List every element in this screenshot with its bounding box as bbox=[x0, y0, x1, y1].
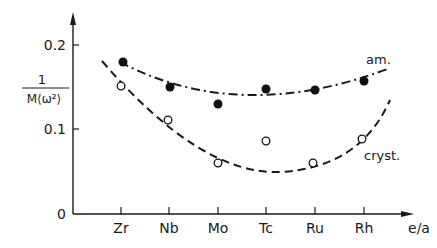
x-tick-rh: Rh bbox=[355, 220, 374, 236]
cryst-point-rh bbox=[358, 135, 366, 143]
am-point-mo bbox=[214, 100, 223, 109]
cryst-point-tc bbox=[262, 137, 270, 145]
am-point-nb bbox=[166, 83, 175, 92]
y-label-denominator: M⟨ω²⟩ bbox=[27, 92, 62, 106]
y-tick-0.2: 0.2 bbox=[44, 37, 66, 53]
am-point-zr bbox=[119, 58, 128, 67]
y-tick-0.1: 0.1 bbox=[44, 121, 66, 137]
cryst-curve bbox=[102, 61, 390, 172]
chart: 0.2 0.1 0 1 M⟨ω²⟩ Zr Nb Mo Tc Ru Rh e/a … bbox=[0, 0, 437, 248]
x-axis bbox=[73, 207, 414, 217]
am-point-rh bbox=[360, 77, 369, 86]
cryst-label: cryst. bbox=[364, 148, 400, 163]
am-points bbox=[119, 58, 369, 109]
cryst-points bbox=[117, 82, 366, 167]
am-curve bbox=[120, 62, 390, 95]
y-tick-0: 0 bbox=[57, 206, 66, 222]
x-tick-ru: Ru bbox=[306, 220, 324, 236]
y-label-numerator: 1 bbox=[38, 72, 46, 87]
y-axis-label: 1 M⟨ω²⟩ bbox=[22, 72, 69, 106]
y-axis-arrow-icon bbox=[70, 12, 76, 25]
am-point-tc bbox=[262, 85, 271, 94]
y-axis bbox=[70, 12, 79, 214]
am-point-ru bbox=[311, 86, 320, 95]
cryst-point-nb bbox=[164, 116, 172, 124]
x-tick-nb: Nb bbox=[159, 220, 178, 236]
cryst-point-zr bbox=[117, 82, 125, 90]
am-label: am. bbox=[366, 52, 391, 67]
cryst-point-mo bbox=[214, 159, 222, 167]
x-tick-mo: Mo bbox=[208, 220, 229, 236]
x-axis-label: e/a bbox=[408, 220, 430, 236]
cryst-point-ru bbox=[309, 159, 317, 167]
x-axis-arrow-icon bbox=[401, 211, 414, 217]
x-tick-zr: Zr bbox=[113, 220, 129, 236]
x-tick-tc: Tc bbox=[258, 220, 273, 236]
